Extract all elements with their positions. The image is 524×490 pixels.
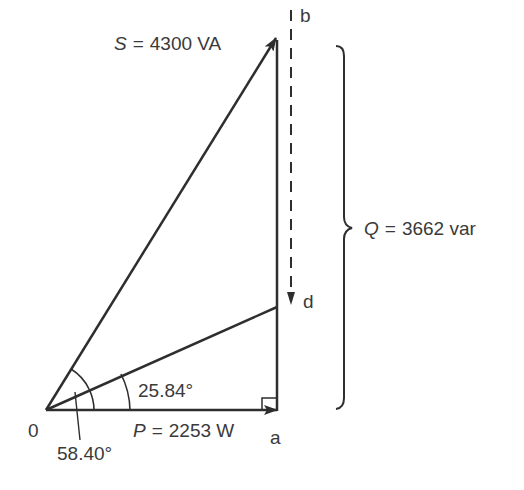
label-point-origin: 0 [28, 421, 39, 440]
label-point-b: b [300, 6, 311, 25]
reactive-power-value: 3662 var [402, 218, 476, 239]
label-apparent-power: S=4300 VA [114, 34, 221, 53]
symbol-s: S [114, 33, 127, 54]
label-point-d: d [303, 292, 314, 311]
apparent-power-value: 4300 VA [150, 33, 221, 54]
equals-sign: = [379, 218, 402, 239]
equals-sign: = [146, 420, 169, 441]
q-brace [336, 46, 352, 409]
label-angle-outer: 58.40° [57, 444, 112, 463]
symbol-p: P [133, 420, 146, 441]
angle-arc-outer-58-a [89, 389, 94, 410]
real-power-value: 2253 W [169, 420, 234, 441]
dashed-arrowhead-icon [287, 292, 295, 305]
power-triangle-diagram [0, 0, 524, 490]
label-angle-inner: 25.84° [138, 381, 193, 400]
angle-arc-inner-25 [121, 374, 130, 410]
s-vector [46, 38, 276, 410]
equals-sign: = [127, 33, 150, 54]
label-reactive-power: Q=3662 var [364, 219, 476, 238]
label-real-power: P=2253 W [133, 421, 234, 440]
label-point-a: a [270, 428, 281, 447]
angle-leader-line [75, 392, 80, 440]
symbol-q: Q [364, 218, 379, 239]
right-angle-marker [262, 398, 277, 410]
angle-arc-outer-58-b [71, 369, 89, 389]
